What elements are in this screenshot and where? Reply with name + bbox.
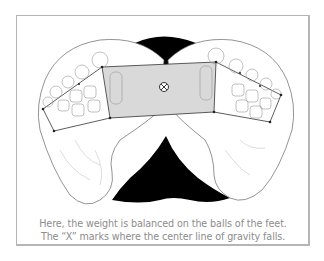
figure-caption: Here, the weight is balanced on the ball… — [16, 217, 310, 243]
caption-line-1: Here, the weight is balanced on the ball… — [16, 217, 310, 230]
balance-region — [102, 62, 216, 118]
center-of-gravity-x-icon — [160, 83, 169, 92]
caption-line-2: The “X” marks where the center line of g… — [16, 230, 310, 243]
